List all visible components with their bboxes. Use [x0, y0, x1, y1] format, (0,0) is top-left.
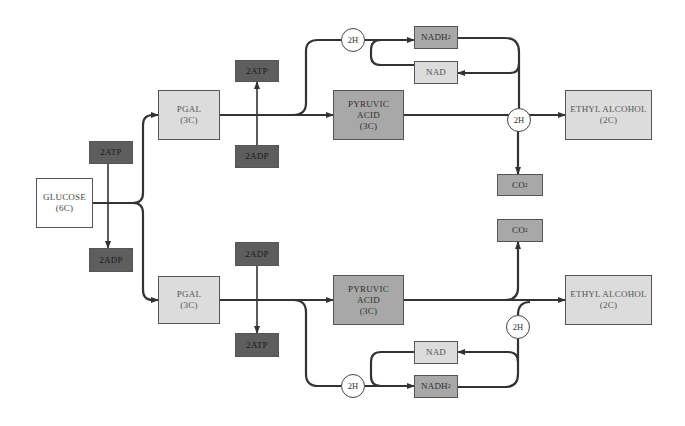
top-left-2h-label: 2H — [348, 35, 358, 45]
bottom-atp-box: 2ATP — [235, 333, 279, 357]
top-atp-box: 2ATP — [235, 60, 279, 82]
top-nadh2-box: NADH2 — [414, 26, 458, 49]
top-nad-box: NAD — [414, 61, 458, 84]
bottom-pyruvic-acid-box: PYRUVIC ACID (3C) — [333, 275, 404, 325]
left-atp-label: 2ATP — [100, 147, 121, 158]
bottom-right-2h-label: 2H — [513, 322, 523, 332]
bottom-ethyl-alcohol-box: ETHYL ALCOHOL (2C) — [565, 275, 652, 325]
bottom-right-2h-circle: 2H — [506, 315, 530, 339]
bottom-nadh2-subscript: 2 — [448, 381, 451, 392]
bottom-co2-box: CO2 — [497, 219, 543, 242]
top-pyruvic-carbon-count: (3C) — [360, 121, 377, 132]
left-adp-label: 2ADP — [99, 255, 122, 266]
bottom-pgal-label: PGAL — [177, 289, 201, 300]
top-nad-label: NAD — [426, 67, 446, 78]
bottom-nadh2-box: NADH2 — [414, 375, 458, 398]
glucose-carbon-count: (6C) — [56, 203, 73, 214]
top-atp-label: 2ATP — [246, 66, 267, 77]
connector-arrows — [0, 0, 685, 426]
top-pyruvic-acid-box: PYRUVIC ACID (3C) — [333, 90, 404, 140]
glucose-label: GLUCOSE — [43, 192, 86, 203]
top-co2-box: CO2 — [497, 174, 543, 196]
top-pyruvic-label: PYRUVIC — [348, 99, 389, 110]
top-co2-label: CO — [512, 180, 525, 191]
top-right-2h-label: 2H — [514, 115, 524, 125]
top-left-2h-circle: 2H — [341, 28, 365, 52]
bottom-left-2h-label: 2H — [348, 381, 358, 391]
bottom-nadh2-label: NADH — [421, 381, 448, 392]
bottom-pyruvic-label: PYRUVIC — [348, 284, 389, 295]
bottom-pyruvic-carbon-count: (3C) — [360, 306, 377, 317]
bottom-ethyl-alcohol-label: ETHYL ALCOHOL — [570, 289, 647, 300]
left-adp-box: 2ADP — [89, 248, 133, 272]
top-adp-label: 2ADP — [245, 151, 268, 162]
top-adp-box: 2ADP — [235, 145, 279, 168]
top-pgal-label: PGAL — [177, 104, 201, 115]
top-pgal-carbon-count: (3C) — [180, 115, 197, 126]
bottom-adp-label: 2ADP — [245, 249, 268, 260]
top-ethyl-alcohol-label: ETHYL ALCOHOL — [570, 104, 647, 115]
bottom-pgal-carbon-count: (3C) — [180, 300, 197, 311]
top-right-2h-circle: 2H — [507, 108, 531, 132]
bottom-atp-label: 2ATP — [246, 340, 267, 351]
left-atp-box: 2ATP — [89, 141, 133, 164]
top-ethyl-alcohol-box: ETHYL ALCOHOL (2C) — [565, 90, 652, 140]
bottom-acid-label: ACID — [357, 295, 380, 306]
bottom-pgal-box: PGAL (3C) — [158, 276, 220, 324]
fermentation-diagram: GLUCOSE (6C) 2ATP 2ADP PGAL (3C) 2ATP 2A… — [0, 0, 685, 426]
bottom-co2-label: CO — [512, 225, 525, 236]
bottom-ethyl-carbon-count: (2C) — [600, 300, 617, 311]
top-nadh2-label: NADH — [421, 32, 448, 43]
bottom-adp-box: 2ADP — [235, 242, 279, 266]
bottom-left-2h-circle: 2H — [341, 374, 365, 398]
bottom-nad-box: NAD — [414, 341, 458, 364]
top-nadh2-subscript: 2 — [448, 32, 451, 43]
bottom-co2-subscript: 2 — [525, 225, 528, 236]
top-ethyl-carbon-count: (2C) — [600, 115, 617, 126]
top-acid-label: ACID — [357, 110, 380, 121]
top-pgal-box: PGAL (3C) — [158, 90, 220, 140]
top-co2-subscript: 2 — [525, 180, 528, 191]
bottom-nad-label: NAD — [426, 347, 446, 358]
glucose-box: GLUCOSE (6C) — [36, 178, 93, 228]
